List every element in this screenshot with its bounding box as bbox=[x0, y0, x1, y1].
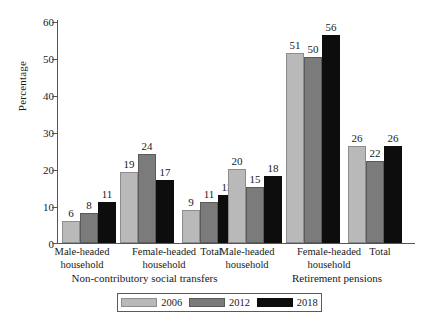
y-tick-label-50: 50 bbox=[28, 54, 54, 64]
legend-swatch-2018 bbox=[257, 298, 293, 307]
bar-2018-male-headed-household-g2 bbox=[264, 176, 282, 243]
legend-swatch-2012 bbox=[189, 298, 225, 307]
bar-value-label: 18 bbox=[258, 163, 288, 174]
bar-2006-female-headed-household-g1 bbox=[120, 172, 138, 243]
legend-swatch-2006 bbox=[121, 298, 157, 307]
bar-2018-male-headed-household-g1 bbox=[98, 202, 116, 243]
bar-chart: Percentage 60 50 40 30 20 10 0 681119241… bbox=[0, 0, 438, 320]
bar-2018-female-headed-household-g1 bbox=[156, 180, 174, 243]
legend-item-2012: 2012 bbox=[189, 297, 250, 308]
bar-2012-male-headed-household-g1 bbox=[80, 213, 98, 243]
bar-value-label: 20 bbox=[222, 156, 252, 167]
legend-label-2012: 2012 bbox=[229, 297, 250, 308]
bar-2018-total-g2 bbox=[384, 146, 402, 243]
y-tick-label-60: 60 bbox=[28, 17, 54, 27]
bar-value-label: 26 bbox=[378, 133, 408, 144]
group-label-retirement: Retirement pensions bbox=[252, 272, 422, 284]
bar-2018-female-headed-household-g2 bbox=[322, 35, 340, 243]
bar-2006-male-headed-household-g1 bbox=[62, 221, 80, 243]
legend-label-2006: 2006 bbox=[161, 297, 182, 308]
bar-2012-male-headed-household-g2 bbox=[246, 187, 264, 243]
bar-2012-total-g2 bbox=[366, 161, 384, 243]
legend-item-2006: 2006 bbox=[121, 297, 182, 308]
bar-value-label: 11 bbox=[92, 189, 122, 200]
plot-area: 681119241791113201518515056262226 bbox=[57, 20, 415, 243]
legend-label-2018: 2018 bbox=[297, 297, 318, 308]
y-tick-label-30: 30 bbox=[28, 128, 54, 138]
y-tick-label-10: 10 bbox=[28, 202, 54, 212]
y-axis-title: Percentage bbox=[16, 36, 32, 136]
bar-value-label: 56 bbox=[316, 22, 346, 33]
bar-2012-total-g1 bbox=[200, 202, 218, 243]
bar-2006-total-g1 bbox=[182, 210, 200, 243]
legend: 2006 2012 2018 bbox=[117, 293, 322, 312]
category-label-male-headed-2: Male-headedhousehold bbox=[205, 246, 289, 271]
legend-item-2018: 2018 bbox=[257, 297, 318, 308]
y-tick-label-40: 40 bbox=[28, 91, 54, 101]
bar-2006-total-g2 bbox=[348, 146, 366, 243]
bar-2012-female-headed-household-g2 bbox=[304, 57, 322, 243]
y-tick-label-20: 20 bbox=[28, 165, 54, 175]
bar-value-label: 24 bbox=[132, 141, 162, 152]
category-label-male-headed-1: Male-headedhousehold bbox=[40, 246, 124, 271]
bar-value-label: 26 bbox=[342, 133, 372, 144]
x-axis-line bbox=[57, 243, 415, 244]
bar-value-label: 17 bbox=[150, 167, 180, 178]
category-label-total-2: Total bbox=[345, 246, 415, 259]
bar-2006-female-headed-household-g2 bbox=[286, 53, 304, 243]
group-label-non-contributory: Non-contributory social transfers bbox=[37, 272, 252, 284]
